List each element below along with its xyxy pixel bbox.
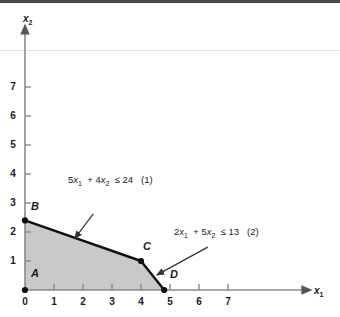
y-tick-label-2: 2: [5, 226, 21, 238]
y-axis-title-sub: 2: [29, 19, 33, 26]
y-axis-title: x2: [23, 13, 32, 28]
x-tick-label-5: 5: [162, 296, 178, 308]
x-axis-title: x1: [314, 285, 323, 300]
constraint-2-leader-arrow: [157, 247, 208, 275]
x-tick-label-1: 1: [46, 296, 62, 308]
constraint-2-sub-1: 1: [184, 232, 188, 239]
constraint-2-number: (2): [247, 226, 259, 237]
constraint-2-label: 2x1 + 5x2 ≤ 13 (2): [174, 226, 259, 242]
y-tick-label-1: 1: [5, 255, 21, 267]
vertex-label-a: A: [31, 267, 39, 279]
linear-programming-feasible-region-figure: 0 1 2 3 4 5 6 7 7 6 5 4 3 2 1 x2 x1 A B …: [0, 0, 340, 317]
y-tick-label-5: 5: [5, 139, 21, 151]
constraint-1-leader-arrow: [75, 214, 93, 239]
constraint-2-sub-2: 2: [211, 232, 215, 239]
vertex-point-a: [22, 287, 28, 293]
x-tick-label-7: 7: [220, 296, 236, 308]
x-tick-label-3: 3: [104, 296, 120, 308]
constraint-1-rhs: 24: [123, 174, 134, 185]
constraint-1-relation: ≤: [115, 174, 120, 185]
constraint-2-rhs: 13: [229, 226, 240, 237]
x-tick-label-0: 0: [17, 296, 33, 308]
y-tick-label-4: 4: [5, 168, 21, 180]
constraint-1-number: (1): [141, 174, 153, 185]
x-tick-label-2: 2: [75, 296, 91, 308]
vertex-label-c: C: [143, 240, 151, 252]
x-tick-label-6: 6: [191, 296, 207, 308]
constraint-1-sub-2: 2: [105, 180, 109, 187]
constraint-1-sub-1: 1: [78, 180, 82, 187]
feasible-region-fill: [25, 220, 164, 290]
vertex-point-b: [22, 217, 28, 223]
vertex-label-b: B: [31, 200, 39, 212]
vertex-point-d: [161, 287, 167, 293]
y-tick-label-3: 3: [5, 197, 21, 209]
constraint-1-label: 5x1 + 4x2 ≤ 24 (1): [68, 174, 153, 190]
x-axis-title-sub: 1: [320, 291, 324, 298]
vertex-label-d: D: [170, 268, 178, 280]
constraint-2-relation: ≤: [221, 226, 226, 237]
x-tick-label-4: 4: [133, 296, 149, 308]
y-tick-label-7: 7: [5, 81, 21, 93]
y-tick-label-6: 6: [5, 110, 21, 122]
vertex-point-c: [138, 258, 144, 264]
